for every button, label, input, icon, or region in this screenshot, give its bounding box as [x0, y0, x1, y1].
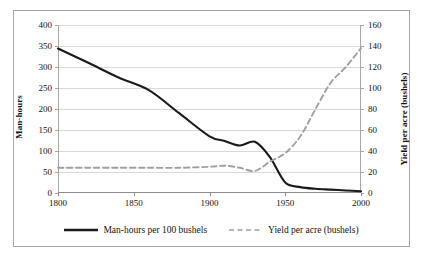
- x-axis-label: 1800: [49, 198, 67, 208]
- y-axis-right-tick: [361, 67, 364, 68]
- y-axis-left-label: 150: [22, 125, 52, 135]
- series-line-1: [58, 49, 361, 192]
- legend-swatch-solid: [64, 226, 98, 234]
- x-axis-tick: [361, 193, 362, 196]
- y-axis-right-label: 160: [368, 20, 398, 30]
- y-axis-right-label: 20: [368, 167, 398, 177]
- y-axis-left-label: 400: [22, 20, 52, 30]
- y-axis-right-label: 120: [368, 62, 398, 72]
- y-axis-right-label: 100: [368, 83, 398, 93]
- y-axis-right-tick: [361, 25, 364, 26]
- y-axis-left-label: 200: [22, 104, 52, 114]
- series-lines: [58, 25, 361, 193]
- chart-legend: Man-hours per 100 bushelsYield per acre …: [14, 222, 409, 238]
- x-axis-label: 2000: [352, 198, 370, 208]
- y-axis-right-label: 80: [368, 104, 398, 114]
- y-axis-right-tick: [361, 151, 364, 152]
- y-axis-right-label: 140: [368, 41, 398, 51]
- legend-label: Yield per acre (bushels): [268, 225, 358, 235]
- legend-swatch-dashed: [229, 226, 263, 234]
- y-axis-right-label: 60: [368, 125, 398, 135]
- y-axis-left-title: Man-hours: [12, 57, 26, 177]
- y-axis-right-label: 0: [368, 188, 398, 198]
- y-axis-right-tick: [361, 46, 364, 47]
- x-axis-tick: [285, 193, 286, 196]
- series-line-2: [58, 48, 361, 171]
- y-axis-left-label: 50: [22, 167, 52, 177]
- y-axis-left-label: 250: [22, 83, 52, 93]
- y-axis-left-label: 100: [22, 146, 52, 156]
- x-axis-tick: [210, 193, 211, 196]
- y-axis-right-tick: [361, 109, 364, 110]
- x-axis-tick: [58, 193, 59, 196]
- plot-area: 050100150200250300350400 020406080100120…: [58, 25, 361, 193]
- y-axis-right-label: 40: [368, 146, 398, 156]
- x-axis-label: 1850: [125, 198, 143, 208]
- chart-container: Man-hours Yield per acre (bushels) 05010…: [13, 10, 410, 247]
- y-axis-left-label: 300: [22, 62, 52, 72]
- x-axis-tick: [134, 193, 135, 196]
- y-axis-right-tick: [361, 88, 364, 89]
- y-axis-left-label: 0: [22, 188, 52, 198]
- legend-item[interactable]: Man-hours per 100 bushels: [64, 225, 207, 235]
- y-axis-right-tick: [361, 172, 364, 173]
- y-axis-right-tick: [361, 130, 364, 131]
- legend-item[interactable]: Yield per acre (bushels): [229, 225, 358, 235]
- y-axis-left-label: 350: [22, 41, 52, 51]
- y-axis-right-title: Yield per acre (bushels): [397, 39, 411, 199]
- x-axis-label: 1950: [276, 198, 294, 208]
- legend-label: Man-hours per 100 bushels: [103, 225, 207, 235]
- x-axis-label: 1900: [201, 198, 219, 208]
